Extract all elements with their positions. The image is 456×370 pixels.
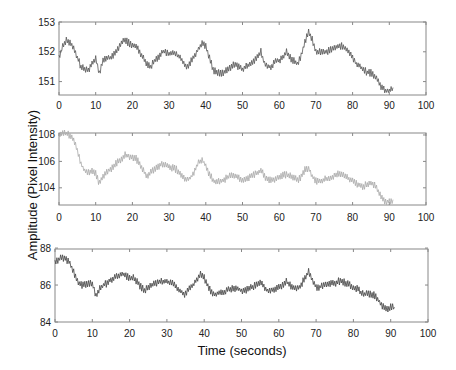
y-tick-label: 152 — [38, 46, 55, 57]
x-tick-label: 70 — [310, 100, 322, 111]
x-tick-label: 0 — [56, 100, 62, 111]
y-tick-label: 104 — [38, 182, 55, 193]
x-tick-label: 90 — [384, 212, 396, 223]
signal-line — [59, 130, 393, 205]
x-tick-label: 80 — [347, 212, 359, 223]
y-tick-label: 86 — [40, 280, 52, 291]
x-tick-label: 80 — [347, 100, 359, 111]
y-tick-label: 151 — [38, 76, 55, 87]
x-tick-label: 40 — [200, 212, 212, 223]
x-tick-label: 30 — [164, 212, 176, 223]
x-tick-label: 60 — [273, 328, 285, 339]
chart-figure: 0102030405060708090100153152151010203040… — [0, 0, 456, 370]
x-tick-label: 60 — [274, 212, 286, 223]
x-axis-label: Time (seconds) — [197, 343, 286, 358]
y-tick-label: 153 — [38, 17, 55, 28]
x-tick-label: 40 — [199, 328, 211, 339]
y-tick-label: 108 — [38, 129, 55, 140]
x-tick-label: 40 — [200, 100, 212, 111]
x-tick-label: 50 — [236, 328, 248, 339]
plot-frame — [59, 22, 426, 95]
x-tick-label: 30 — [161, 328, 173, 339]
x-tick-label: 10 — [90, 212, 102, 223]
x-tick-label: 20 — [127, 212, 139, 223]
y-tick-label: 88 — [40, 243, 52, 254]
signal-line — [59, 29, 393, 93]
x-tick-label: 90 — [385, 328, 397, 339]
x-tick-label: 60 — [274, 100, 286, 111]
x-tick-label: 80 — [348, 328, 360, 339]
x-tick-label: 100 — [420, 328, 437, 339]
x-tick-label: 30 — [164, 100, 176, 111]
x-tick-label: 10 — [90, 100, 102, 111]
x-tick-label: 100 — [418, 212, 435, 223]
x-tick-label: 100 — [418, 100, 435, 111]
y-axis-label: Amplitude (Pixel Intensity) — [25, 110, 40, 260]
subplot-3: 0102030405060708090100888684 — [40, 243, 437, 339]
x-tick-label: 50 — [237, 100, 249, 111]
subplot-1: 0102030405060708090100153152151 — [38, 17, 434, 112]
subplot-panels: 0102030405060708090100153152151010203040… — [38, 17, 436, 340]
x-tick-label: 0 — [52, 328, 58, 339]
x-tick-label: 90 — [384, 100, 396, 111]
signal-line — [55, 255, 394, 312]
x-tick-label: 20 — [127, 100, 139, 111]
x-tick-label: 20 — [124, 328, 136, 339]
y-tick-label: 106 — [38, 156, 55, 167]
x-tick-label: 70 — [311, 328, 323, 339]
x-tick-label: 50 — [237, 212, 249, 223]
subplot-2: 0102030405060708090100108106104 — [38, 129, 434, 223]
y-tick-label: 84 — [40, 317, 52, 328]
x-tick-label: 10 — [87, 328, 99, 339]
x-tick-label: 0 — [56, 212, 62, 223]
plot-frame — [55, 249, 428, 322]
plot-frame — [59, 133, 426, 205]
x-tick-label: 70 — [310, 212, 322, 223]
